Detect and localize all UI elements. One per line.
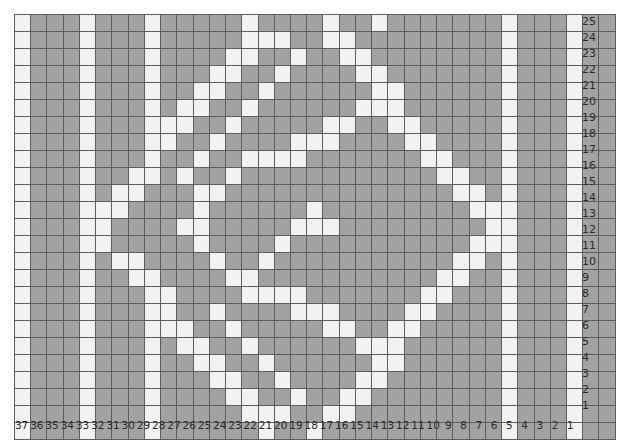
grid-cell[interactable] (518, 168, 534, 185)
grid-cell[interactable] (485, 66, 501, 83)
grid-cell[interactable] (144, 338, 160, 355)
grid-cell[interactable] (242, 287, 258, 304)
grid-cell[interactable] (47, 304, 63, 321)
grid-cell[interactable] (193, 202, 209, 219)
grid-cell[interactable] (128, 66, 144, 83)
grid-cell[interactable] (274, 219, 290, 236)
grid-cell[interactable] (485, 32, 501, 49)
grid-cell[interactable] (177, 32, 193, 49)
grid-cell[interactable] (161, 66, 177, 83)
grid-cell[interactable] (502, 236, 518, 253)
grid-cell[interactable] (290, 372, 306, 389)
grid-cell[interactable] (404, 219, 420, 236)
grid-cell[interactable] (502, 83, 518, 100)
grid-cell[interactable] (550, 304, 566, 321)
grid-cell[interactable] (437, 287, 453, 304)
grid-cell[interactable] (47, 270, 63, 287)
grid-cell[interactable] (290, 253, 306, 270)
grid-cell[interactable] (550, 219, 566, 236)
grid-cell[interactable] (323, 389, 339, 406)
grid-cell[interactable] (161, 219, 177, 236)
grid-cell[interactable] (388, 287, 404, 304)
grid-cell[interactable] (485, 321, 501, 338)
grid-cell[interactable] (226, 15, 242, 32)
grid-cell[interactable] (15, 100, 31, 117)
grid-cell[interactable] (161, 134, 177, 151)
grid-cell[interactable] (274, 100, 290, 117)
grid-cell[interactable] (96, 185, 112, 202)
grid-cell[interactable] (420, 83, 436, 100)
grid-cell[interactable] (15, 355, 31, 372)
grid-cell[interactable] (15, 117, 31, 134)
grid-cell[interactable] (404, 338, 420, 355)
grid-cell[interactable] (161, 321, 177, 338)
grid-cell[interactable] (469, 168, 485, 185)
grid-cell[interactable] (161, 287, 177, 304)
grid-cell[interactable] (258, 304, 274, 321)
grid-cell[interactable] (96, 15, 112, 32)
grid-cell[interactable] (388, 168, 404, 185)
grid-cell[interactable] (144, 49, 160, 66)
grid-cell[interactable] (518, 304, 534, 321)
grid-cell[interactable] (128, 287, 144, 304)
grid-cell[interactable] (404, 389, 420, 406)
grid-cell[interactable] (290, 321, 306, 338)
grid-cell[interactable] (534, 66, 550, 83)
grid-cell[interactable] (420, 117, 436, 134)
grid-cell[interactable] (128, 100, 144, 117)
grid-cell[interactable] (469, 389, 485, 406)
grid-cell[interactable] (242, 168, 258, 185)
grid-cell[interactable] (96, 168, 112, 185)
grid-cell[interactable] (96, 270, 112, 287)
grid-cell[interactable] (307, 32, 323, 49)
grid-cell[interactable] (144, 355, 160, 372)
grid-cell[interactable] (112, 185, 128, 202)
grid-cell[interactable] (63, 253, 79, 270)
grid-cell[interactable] (437, 49, 453, 66)
grid-cell[interactable] (404, 32, 420, 49)
grid-cell[interactable] (79, 236, 95, 253)
grid-cell[interactable] (323, 15, 339, 32)
grid-cell[interactable] (31, 117, 47, 134)
grid-cell[interactable] (31, 321, 47, 338)
grid-cell[interactable] (420, 15, 436, 32)
grid-cell[interactable] (63, 151, 79, 168)
grid-cell[interactable] (372, 236, 388, 253)
grid-cell[interactable] (209, 100, 225, 117)
grid-cell[interactable] (226, 202, 242, 219)
grid-cell[interactable] (437, 185, 453, 202)
grid-cell[interactable] (161, 117, 177, 134)
grid-cell[interactable] (437, 321, 453, 338)
grid-cell[interactable] (15, 287, 31, 304)
grid-cell[interactable] (453, 32, 469, 49)
grid-cell[interactable] (372, 355, 388, 372)
grid-cell[interactable] (15, 83, 31, 100)
grid-cell[interactable] (79, 151, 95, 168)
grid-cell[interactable] (144, 168, 160, 185)
grid-cell[interactable] (47, 100, 63, 117)
grid-cell[interactable] (226, 83, 242, 100)
grid-cell[interactable] (31, 49, 47, 66)
grid-cell[interactable] (209, 219, 225, 236)
grid-cell[interactable] (15, 219, 31, 236)
grid-cell[interactable] (226, 117, 242, 134)
grid-cell[interactable] (31, 304, 47, 321)
grid-cell[interactable] (453, 372, 469, 389)
grid-cell[interactable] (420, 389, 436, 406)
grid-cell[interactable] (437, 236, 453, 253)
grid-cell[interactable] (242, 32, 258, 49)
grid-cell[interactable] (566, 66, 582, 83)
grid-cell[interactable] (372, 202, 388, 219)
grid-cell[interactable] (583, 423, 599, 440)
grid-cell[interactable] (550, 287, 566, 304)
grid-cell[interactable] (307, 134, 323, 151)
grid-cell[interactable] (226, 304, 242, 321)
grid-cell[interactable] (226, 321, 242, 338)
grid-cell[interactable] (47, 338, 63, 355)
grid-cell[interactable] (485, 151, 501, 168)
grid-cell[interactable] (226, 151, 242, 168)
grid-cell[interactable] (112, 338, 128, 355)
grid-cell[interactable] (63, 134, 79, 151)
grid-cell[interactable] (193, 83, 209, 100)
grid-cell[interactable] (404, 185, 420, 202)
